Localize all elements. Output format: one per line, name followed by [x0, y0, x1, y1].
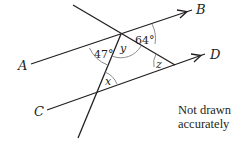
arc-y	[112, 46, 141, 58]
note-line-2: accurately	[178, 117, 231, 131]
not-drawn-accurately-note: Not drawn accurately	[178, 103, 231, 131]
label-a: A	[17, 58, 27, 73]
angle-64-label: 64°	[135, 34, 155, 47]
line-cd	[47, 54, 205, 110]
label-d: D	[209, 47, 221, 62]
label-c: C	[34, 104, 44, 119]
angle-y-label: y	[119, 42, 127, 55]
note-line-1: Not drawn	[178, 103, 231, 117]
angle-x-label: x	[105, 75, 112, 88]
label-b: B	[195, 2, 206, 17]
transversal-1	[73, 5, 175, 65]
angle-z-label: z	[155, 58, 162, 71]
angle-47-label: 47°	[94, 48, 114, 61]
